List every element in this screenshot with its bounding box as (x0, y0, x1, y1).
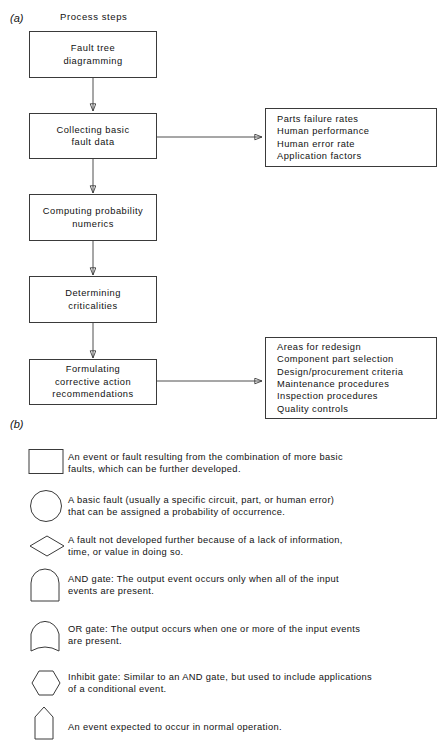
inhibit-gate-symbol (28, 667, 68, 703)
legend-description: A basic fault (usually a specific circui… (68, 494, 432, 519)
process-box-label: Collecting basic fault data (56, 124, 129, 149)
legend-description: An event expected to occur in normal ope… (68, 721, 432, 733)
and-gate-symbol (28, 568, 68, 608)
legend-description: Inhibit gate: Similar to an AND gate, bu… (68, 671, 432, 696)
house-event-symbol (28, 705, 68, 744)
process-box-determining-criticalities[interactable]: Determining criticalities (29, 276, 157, 323)
legend-description: An event or fault resulting from the com… (68, 451, 432, 476)
process-box-label: Determining criticalities (65, 287, 121, 312)
legend-description: A fault not developed further because of… (68, 534, 432, 559)
process-box-label: Formulating corrective action recommenda… (52, 363, 133, 401)
panel-label-b: (b) (10, 418, 23, 430)
undeveloped-diamond-symbol (28, 533, 72, 563)
legend-description: AND gate: The output event occurs only w… (68, 573, 432, 598)
legend-description: OR gate: The output occurs when one or m… (68, 623, 432, 648)
output-box-list: Areas for redesign Component part select… (277, 341, 403, 415)
basic-fault-circle-symbol (28, 489, 68, 527)
output-box-fault-data-inputs[interactable]: Parts failure rates Human performance Hu… (265, 108, 437, 167)
process-box-collecting-basic-fault-data[interactable]: Collecting basic fault data (29, 113, 157, 159)
process-box-label: Fault tree diagramming (63, 42, 122, 67)
process-box-computing-probability-numerics[interactable]: Computing probability numerics (29, 194, 157, 241)
event-rectangle-symbol (28, 447, 68, 481)
figure-b-legend: (b) An event or fault resulting from the… (0, 405, 448, 699)
or-gate-symbol (28, 616, 68, 660)
process-box-label: Computing probability numerics (43, 205, 143, 230)
figure-a-flowchart: (a) Process steps Fault tree diagramming… (0, 0, 448, 420)
output-box-list: Parts failure rates Human performance Hu… (277, 113, 369, 162)
flowchart-heading: Process steps (60, 11, 127, 22)
panel-label-a: (a) (10, 12, 23, 24)
process-box-fault-tree-diagramming[interactable]: Fault tree diagramming (29, 31, 157, 78)
process-box-formulating-corrective-action-recommendations[interactable]: Formulating corrective action recommenda… (29, 359, 157, 405)
